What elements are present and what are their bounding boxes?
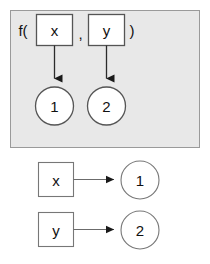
binding-source-box-x-label: x [52, 172, 60, 189]
binding-row-x: x 1 [39, 161, 160, 199]
call-suffix-label: ) [130, 22, 135, 39]
binding-row-y: y 2 [39, 211, 160, 249]
param-box-x-label: x [51, 22, 59, 39]
function-call-panel: f( x , y ) 1 2 [11, 11, 200, 148]
diagram-canvas: f( x , y ) 1 2 x [0, 0, 210, 264]
variable-binding-diagram: f( x , y ) 1 2 x [0, 0, 210, 264]
call-separator-label: , [78, 25, 82, 42]
binding-target-circle-1-label: 1 [136, 172, 144, 189]
binding-source-box-y-label: y [52, 222, 60, 239]
panel-value-circle-1-label: 1 [50, 98, 58, 115]
call-prefix-label: f( [18, 22, 27, 39]
param-box-y-label: y [103, 22, 111, 39]
binding-target-circle-2-label: 2 [136, 222, 144, 239]
panel-value-circle-2-label: 2 [102, 98, 110, 115]
